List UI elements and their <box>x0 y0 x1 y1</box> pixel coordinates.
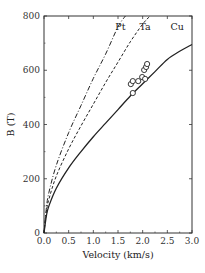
y-tick-label: 600 <box>23 65 40 75</box>
x-axis-title: Velocity (km/s) <box>81 249 153 260</box>
series-label-pt: Pt <box>115 21 125 32</box>
x-tick-label: 1.5 <box>111 236 126 246</box>
series-group <box>44 16 192 233</box>
data-point-marker <box>145 61 150 66</box>
y-tick-label: 800 <box>23 11 40 21</box>
data-markers <box>128 61 149 95</box>
y-tick-label: 0 <box>34 228 40 238</box>
series-label-ta: Ta <box>140 21 152 32</box>
data-point-marker <box>136 79 141 84</box>
axes: 0.00.51.01.52.02.53.00200400600800 <box>23 11 200 246</box>
chart: 0.00.51.01.52.02.53.00200400600800 Veloc… <box>0 0 205 273</box>
y-axis-title: B (T) <box>5 113 16 137</box>
data-point-marker <box>130 90 135 95</box>
data-point-marker <box>130 79 135 84</box>
series-line-pt <box>44 16 125 233</box>
series-label-cu: Cu <box>171 21 184 32</box>
x-tick-label: 2.5 <box>160 236 175 246</box>
x-tick-label: 1.0 <box>86 236 101 246</box>
data-point-marker <box>143 76 148 81</box>
x-tick-label: 3.0 <box>185 236 200 246</box>
x-tick-label: 0.5 <box>62 236 77 246</box>
series-line-ta <box>44 16 150 233</box>
x-tick-label: 2.0 <box>136 236 151 246</box>
plot-frame <box>44 16 192 233</box>
y-tick-label: 400 <box>23 120 40 130</box>
y-tick-label: 200 <box>23 174 40 184</box>
labels: Velocity (km/s)B (T)PtTaCu <box>5 21 184 260</box>
